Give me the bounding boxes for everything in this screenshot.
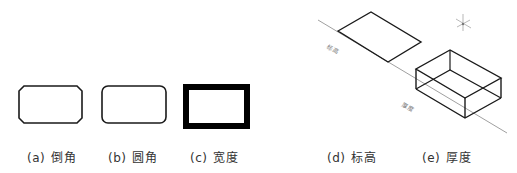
caption-letter: (d) <box>327 151 345 165</box>
caption-letter: (e) <box>422 151 440 165</box>
caption-b: (b)圆角 <box>108 148 157 165</box>
rounded-rectangle <box>102 86 166 123</box>
caption-d: (d)标高 <box>327 148 376 165</box>
elevation-parallelogram <box>338 12 421 62</box>
caption-text: 标高 <box>351 151 376 165</box>
isometric-box <box>416 50 501 118</box>
chamfered-rectangle <box>19 86 82 123</box>
caption-text: 厚度 <box>446 151 471 165</box>
caption-text: 圆角 <box>132 151 157 165</box>
thick-border-rectangle <box>186 87 247 126</box>
caption-letter: (b) <box>108 151 126 165</box>
caption-text: 宽度 <box>213 151 238 165</box>
caption-e: (e)厚度 <box>422 148 471 165</box>
caption-c: (c)宽度 <box>190 148 238 165</box>
caption-text: 倒角 <box>51 151 76 165</box>
caption-letter: (c) <box>190 151 207 165</box>
caption-letter: (a) <box>27 151 45 165</box>
axis-marker-icon <box>456 14 471 31</box>
caption-a: (a)倒角 <box>27 148 76 165</box>
